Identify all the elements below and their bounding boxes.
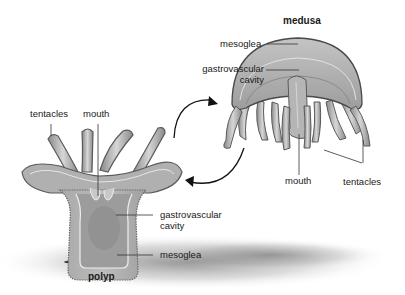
arrowhead-to-polyp [185, 176, 194, 187]
arrow-polyp-to-medusa [174, 100, 212, 138]
medusa-gastro-line1: gastrovascular [186, 64, 264, 75]
polyp-gastro-line2: cavity [160, 221, 222, 232]
medusa-gastrovascular-label: gastrovascular cavity [186, 64, 264, 85]
medusa-title: medusa [283, 16, 321, 27]
ground-shadow [0, 234, 390, 290]
medusa-mouth-label: mouth [285, 176, 311, 187]
polyp-mesoglea-label: mesoglea [160, 250, 201, 261]
diagram-illustration [0, 0, 405, 295]
polyp-title: polyp [88, 272, 115, 283]
polyp-mouth-label: mouth [83, 109, 109, 120]
polyp-gastro-line1: gastrovascular [160, 210, 222, 221]
cnidarian-body-forms-diagram: medusa mesoglea gastrovascular cavity mo… [0, 0, 405, 295]
medusa-mesoglea-label: mesoglea [220, 39, 261, 50]
polyp-tentacles-label: tentacles [30, 109, 68, 120]
medusa-tentacles-label: tentacles [343, 177, 381, 188]
medusa-illustration [224, 38, 370, 150]
medusa-gastro-line2: cavity [186, 75, 264, 86]
arrowhead-to-medusa [208, 96, 218, 106]
arrow-medusa-to-polyp [190, 148, 244, 183]
polyp-gastrovascular-label: gastrovascular cavity [160, 210, 222, 231]
